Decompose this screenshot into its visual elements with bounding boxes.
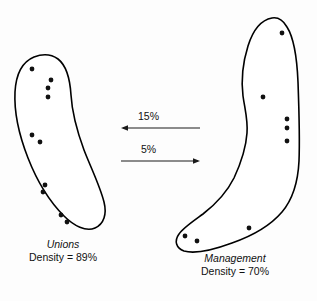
flow-arrow-management-to-unions[interactable] (121, 125, 200, 131)
arrowhead-right-icon (193, 158, 200, 164)
cluster-outline-management[interactable] (176, 18, 299, 252)
member-dot (247, 226, 252, 231)
member-dot (261, 95, 266, 100)
member-dot (41, 190, 46, 195)
member-dot (49, 78, 54, 83)
cluster-outline-unions[interactable] (15, 55, 105, 229)
member-dot (195, 239, 200, 244)
flow-label-5-percent: 5% (141, 143, 156, 155)
diagram-canvas: 15% 5% Unions Density = 89% Management D… (0, 0, 317, 301)
cluster-name-unions: Unions (14, 238, 112, 251)
cluster-density-management: Density = 70% (173, 265, 297, 278)
cluster-density-unions: Density = 89% (14, 251, 112, 264)
member-dot (46, 95, 51, 100)
member-dot (280, 31, 285, 36)
arrowhead-left-icon (121, 125, 128, 131)
member-dot (30, 67, 35, 72)
cluster-name-management: Management (173, 252, 297, 265)
flow-arrow-unions-to-management[interactable] (121, 158, 200, 164)
member-dot (285, 126, 290, 131)
member-dot (59, 213, 64, 218)
cluster-label-management: Management Density = 70% (173, 252, 297, 278)
member-dot (43, 183, 48, 188)
member-dot (65, 220, 70, 225)
member-dot (30, 133, 35, 138)
member-dot (285, 139, 290, 144)
member-dot (38, 140, 43, 145)
cluster-label-unions: Unions Density = 89% (14, 238, 112, 264)
flow-label-15-percent: 15% (138, 110, 159, 122)
member-dot (285, 117, 290, 122)
member-dot (183, 234, 188, 239)
member-dot (46, 86, 51, 91)
